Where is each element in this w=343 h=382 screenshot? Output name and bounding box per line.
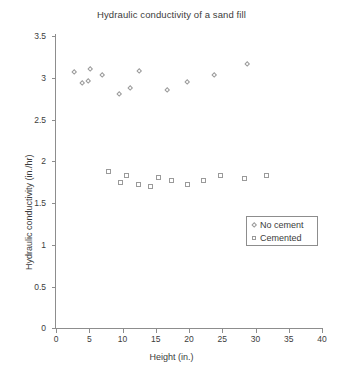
y-tick [52,78,56,79]
data-point-diamond [244,61,250,67]
chart-figure: Hydraulic conductivity of a sand fill 00… [0,0,343,382]
y-tick-label: 3 [6,73,46,83]
data-point-square [169,178,174,183]
data-point-square [156,175,161,180]
x-tick [189,329,190,333]
y-tick-label: 0 [6,323,46,333]
y-tick [52,120,56,121]
data-point-diamond [71,69,77,75]
legend-entry-no-cement[interactable]: No cement [250,218,304,231]
x-tick-label: 0 [41,334,71,344]
x-tick-label: 10 [108,334,138,344]
y-tick [52,328,56,329]
legend-entry-cemented[interactable]: Cemented [250,231,302,244]
legend-label-cemented: Cemented [260,233,302,243]
y-axis-title: Hydraulic conductivity (in./hr) [24,154,34,270]
x-tick-label: 35 [274,334,304,344]
data-point-square [242,176,247,181]
data-point-diamond [136,68,142,74]
x-tick [222,329,223,333]
data-point-square [148,184,153,189]
x-tick [156,329,157,333]
x-tick [289,329,290,333]
x-tick [256,329,257,333]
x-tick [322,329,323,333]
y-tick [52,36,56,37]
y-tick [52,161,56,162]
data-point-diamond [211,72,217,78]
data-point-square [106,169,111,174]
data-point-diamond [184,79,190,85]
x-tick [56,329,57,333]
data-point-square [118,180,123,185]
x-tick-label: 40 [307,334,337,344]
x-tick-label: 15 [141,334,171,344]
data-point-diamond [164,87,170,93]
data-point-diamond [85,78,91,84]
y-tick-label: 3.5 [6,31,46,41]
x-tick-label: 20 [174,334,204,344]
x-tick [123,329,124,333]
y-tick [52,203,56,204]
x-tick-label: 25 [207,334,237,344]
legend-label-no-cement: No cement [260,220,304,230]
data-point-square [136,182,141,187]
data-point-diamond [127,85,133,91]
chart-title: Hydraulic conductivity of a sand fill [0,9,343,20]
diamond-icon [250,220,260,230]
data-point-diamond [99,72,105,78]
data-point-diamond [116,91,122,97]
y-tick-label: 2.5 [6,115,46,125]
y-tick [52,287,56,288]
square-icon [250,233,260,243]
y-tick-label: 0.5 [6,282,46,292]
data-point-diamond [87,66,93,72]
x-tick-label: 5 [74,334,104,344]
chart-legend[interactable]: No cement Cemented [246,216,318,246]
data-point-square [201,178,206,183]
data-point-square [218,173,223,178]
x-tick [89,329,90,333]
plot-area [56,36,322,328]
x-tick-label: 30 [241,334,271,344]
data-point-square [185,182,190,187]
data-point-square [124,173,129,178]
x-axis-title: Height (in.) [0,352,343,362]
data-point-square [264,173,269,178]
y-tick [52,245,56,246]
